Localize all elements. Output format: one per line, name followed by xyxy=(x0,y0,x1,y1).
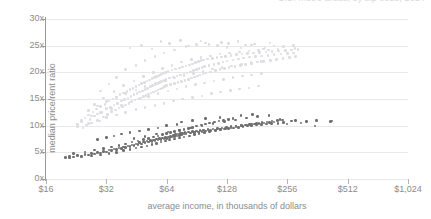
y-tick-label: 15x xyxy=(0,94,44,103)
chart-root: U.S. metro areas, by zip code, 2014 0x5x… xyxy=(0,0,431,219)
chart-title-cutoff: U.S. metro areas, by zip code, 2014 xyxy=(0,0,431,7)
y-tick xyxy=(41,72,46,73)
x-tick-label: $32 xyxy=(99,185,114,194)
chart-title: U.S. metro areas, by zip code, 2014 xyxy=(0,0,431,3)
y-tick xyxy=(41,179,46,180)
x-axis-title: average income, in thousands of dollars xyxy=(46,201,408,211)
y-tick-label: 25x xyxy=(0,41,44,50)
y-tick xyxy=(41,152,46,153)
x-tick-label: $16 xyxy=(38,185,53,194)
y-tick xyxy=(41,99,46,100)
y-tick-label: 10x xyxy=(0,121,44,130)
x-tick-label: $128 xyxy=(217,185,237,194)
y-tick xyxy=(41,19,46,20)
x-tick-label: $256 xyxy=(277,185,297,194)
x-tick-label: $512 xyxy=(338,185,358,194)
y-tick xyxy=(41,126,46,127)
y-tick xyxy=(41,46,46,47)
y-tick-label: 5x xyxy=(0,147,44,156)
x-tick-label: $64 xyxy=(159,185,174,194)
y-tick-label: 20x xyxy=(0,67,44,76)
y-tick-label: 0x xyxy=(0,174,44,183)
x-tick-label: $1,024 xyxy=(394,185,422,194)
y-axis-title: median price/rent ratio xyxy=(47,33,57,183)
y-axis-labels: 0x5x10x15x20x25x30x xyxy=(0,0,44,219)
y-tick-label: 30x xyxy=(0,14,44,23)
